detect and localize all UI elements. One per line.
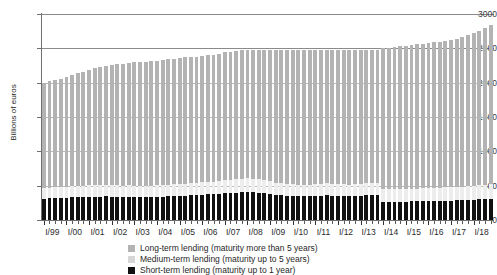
bar-segment <box>257 179 261 192</box>
bar-segment <box>274 50 278 182</box>
bar-segment <box>81 186 85 197</box>
bar-segment <box>195 183 199 195</box>
bar-segment <box>404 46 408 189</box>
bar-segment <box>200 195 204 220</box>
bar-segment <box>262 193 266 220</box>
bar-segment <box>489 199 493 220</box>
bar-segment <box>144 186 148 197</box>
bar-segment <box>98 67 102 185</box>
bar-segment <box>472 200 476 220</box>
bar-segment <box>127 185 131 196</box>
bar-segment <box>87 185 91 196</box>
bar-segment <box>376 50 380 183</box>
bar-segment <box>472 33 476 186</box>
bar <box>488 14 494 220</box>
bar-segment <box>121 186 125 197</box>
bar-segment <box>325 183 329 195</box>
bar-segment <box>291 50 295 184</box>
bar-segment <box>149 197 153 220</box>
bar-segment <box>427 201 431 220</box>
legend-swatch-icon <box>128 245 135 252</box>
bar-segment <box>410 189 414 202</box>
bar-segment <box>110 197 114 220</box>
bar-segment <box>76 197 80 220</box>
bar-segment <box>172 59 176 185</box>
bar-segment <box>342 196 346 220</box>
bar-segment <box>48 198 52 220</box>
bar-segment <box>229 52 233 180</box>
bar-segment <box>449 187 453 200</box>
bar-segment <box>70 186 74 197</box>
bar-segment <box>398 202 402 220</box>
bar-segment <box>336 50 340 184</box>
bar-segment <box>449 201 453 221</box>
bar-segment <box>387 48 391 190</box>
bar-segment <box>217 181 221 194</box>
bar-segment <box>410 45 414 189</box>
bar-segment <box>149 186 153 197</box>
bar-segment <box>110 185 114 196</box>
x-axis-label: I/00 <box>64 226 87 240</box>
bar-segment <box>472 186 476 200</box>
bar-segment <box>443 201 447 220</box>
bar-segment <box>432 188 436 201</box>
bar-segment <box>53 198 57 220</box>
bar-segment <box>246 50 250 179</box>
bar-segment <box>81 197 85 220</box>
bar-segment <box>183 184 187 196</box>
bar-segment <box>342 184 346 196</box>
x-axis-label: I/08 <box>244 226 267 240</box>
bar-segment <box>138 186 142 197</box>
bar-segment <box>93 68 97 185</box>
bar-segment <box>353 50 357 184</box>
x-axis-label: I/13 <box>357 226 380 240</box>
bar-segment <box>251 50 255 179</box>
bar-segment <box>93 197 97 220</box>
bar-segment <box>279 195 283 220</box>
bar-segment <box>240 192 244 220</box>
bar-segment <box>240 179 244 192</box>
bar-segment <box>70 197 74 220</box>
x-axis-ticks <box>41 221 493 225</box>
bar-segment <box>364 195 368 220</box>
legend-label: Medium-term lending (maturity up to 5 ye… <box>140 254 310 265</box>
bar-segment <box>410 201 414 220</box>
bar-segment <box>268 181 272 194</box>
bar-segment <box>257 50 261 180</box>
bar-segment <box>477 185 481 199</box>
bar-segment <box>296 185 300 197</box>
bar-segment <box>183 57 187 183</box>
x-axis-label: I/12 <box>335 226 358 240</box>
bar-segment <box>115 64 119 185</box>
bar-segment <box>308 196 312 220</box>
bar-segment <box>489 184 493 199</box>
bar-segment <box>387 202 391 220</box>
bar-segment <box>212 194 216 220</box>
bar-segment <box>70 75 74 186</box>
x-axis-label: I/07 <box>222 226 245 240</box>
x-axis-label: I/04 <box>154 226 177 240</box>
x-tick <box>488 221 494 225</box>
bar-segment <box>223 193 227 220</box>
bar-segment <box>246 192 250 220</box>
bar-segment <box>285 184 289 196</box>
bar-segment <box>234 193 238 220</box>
bar-segment <box>161 60 165 185</box>
bar-segment <box>302 50 306 184</box>
bar-segment <box>183 196 187 220</box>
bar-segment <box>370 183 374 195</box>
bar-segment <box>404 202 408 220</box>
bar-segment <box>161 185 165 196</box>
bar-segment <box>291 196 295 220</box>
bar-segment <box>319 184 323 196</box>
bar-series-group <box>41 14 493 220</box>
bar-segment <box>42 188 46 199</box>
bar-segment <box>319 196 323 220</box>
bar-segment <box>381 189 385 201</box>
bar-segment <box>200 56 204 182</box>
legend-item: Long-term lending (maturity more than 5 … <box>128 243 318 254</box>
x-axis-labels: I/99I/00I/01I/02I/03I/04I/05I/06I/07I/08… <box>41 226 493 240</box>
chart-legend: Long-term lending (maturity more than 5 … <box>128 243 318 275</box>
bar-segment <box>212 55 216 182</box>
x-axis-label: I/16 <box>425 226 448 240</box>
